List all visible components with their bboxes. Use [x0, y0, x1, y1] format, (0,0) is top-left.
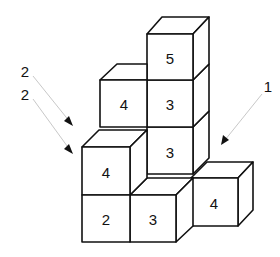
cube-left-upper: 4 [100, 64, 147, 127]
arrow-label: 2 [21, 63, 29, 80]
arrowhead-icon [64, 144, 73, 154]
cube-left-bottom: 2 [82, 195, 130, 242]
cube-top: 5 [147, 17, 209, 80]
cube-right-bottom: 4 [191, 162, 253, 226]
cube-label: 4 [102, 164, 110, 181]
arrow-line [33, 76, 70, 122]
arrow-line [225, 94, 262, 140]
arrowhead-icon [64, 116, 73, 126]
arrow-line [33, 99, 70, 150]
cube-label: 3 [166, 144, 174, 161]
cube-center-bottom: 3 [130, 178, 193, 242]
arrow-label: 2 [21, 86, 29, 103]
cube-stack-diagram: 4 3 3 5 4 3 4 2 [0, 0, 280, 257]
view-arrows-left: 2 2 [21, 63, 73, 155]
cube-left-lower-top: 4 [82, 130, 147, 195]
arrow-label: 1 [264, 78, 272, 95]
cube-label: 3 [149, 211, 157, 228]
cube-label: 3 [166, 96, 174, 113]
view-arrow-right: 1 [221, 78, 272, 146]
cube-label: 2 [102, 211, 110, 228]
cube-label: 5 [166, 50, 174, 67]
cube-label: 4 [120, 96, 128, 113]
cube-label: 4 [210, 195, 218, 212]
